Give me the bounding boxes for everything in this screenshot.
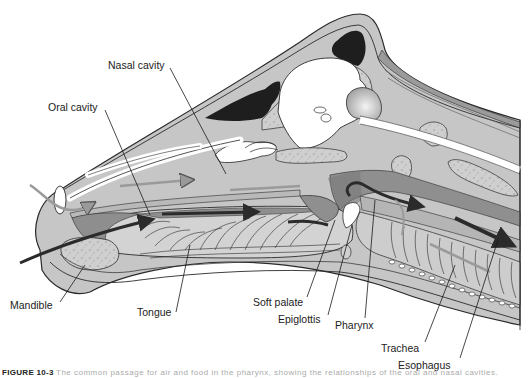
label-nasal-cavity: Nasal cavity: [108, 60, 165, 71]
label-soft-palate: Soft palate: [253, 297, 303, 308]
figure-number: FIGURE 10-3: [2, 368, 54, 377]
label-pharynx: Pharynx: [335, 320, 374, 331]
label-epiglottis: Epiglottis: [278, 314, 321, 325]
figure-caption: FIGURE 10-3 The common passage for air a…: [2, 369, 498, 377]
label-mandible: Mandible: [10, 300, 53, 311]
label-trachea: Trachea: [381, 343, 419, 354]
figure-caption-text: The common passage for air and food in t…: [56, 368, 498, 377]
anatomy-diagram: [0, 0, 530, 378]
label-oral-cavity: Oral cavity: [48, 102, 98, 113]
label-tongue: Tongue: [137, 307, 171, 318]
